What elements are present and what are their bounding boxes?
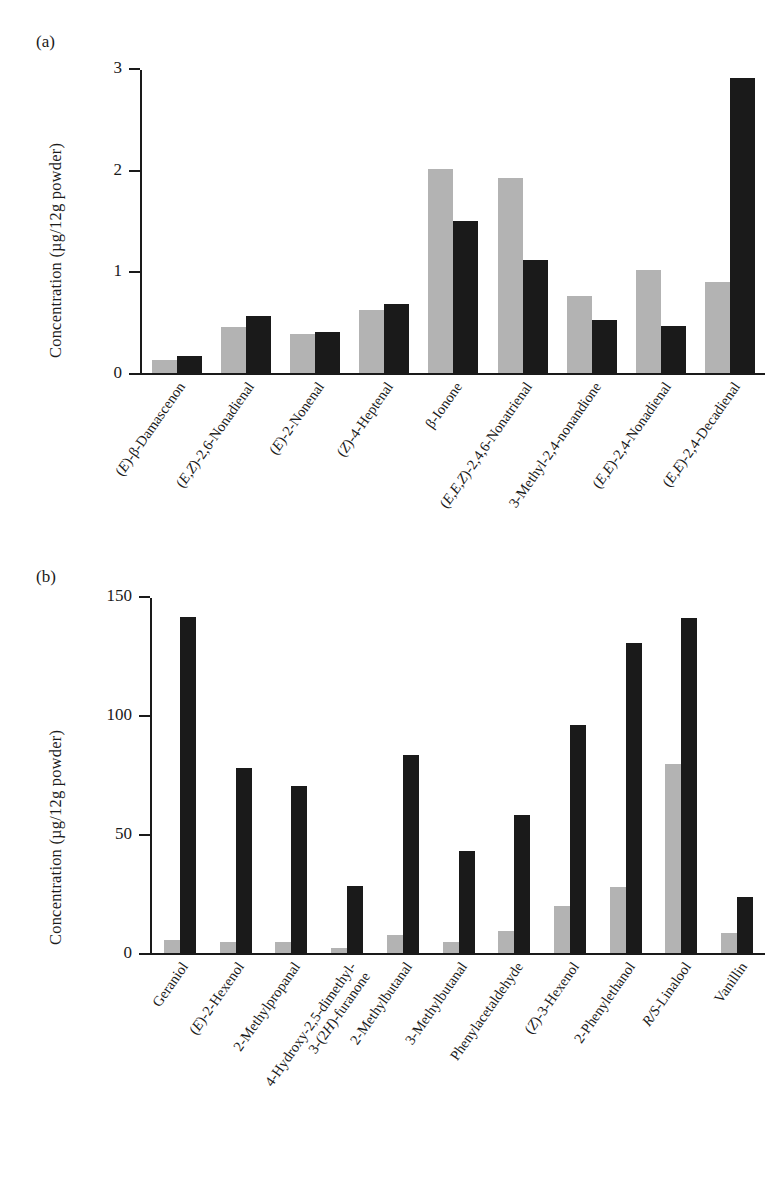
panel-b-bar-group [152,598,208,953]
panel-a-bar-series2 [523,260,548,373]
panel-b-bar-group [208,598,264,953]
panel-a-bar-group [280,70,349,373]
panel-a-bar-series1 [359,310,384,373]
panel-b-x-label-cell: (E)-2-Hexenol [206,955,262,1145]
panel-a-bar-series2 [661,326,686,373]
panel-a-x-label-cell: (E)-2-Nonenal [279,375,348,565]
panel-b-bar-series2 [737,897,753,953]
panel-a-bar-group-container [142,70,765,373]
panel-a-bar-group [696,70,765,373]
panel-b: (b) Concentration (µg/12g powder) 150100… [0,545,781,1191]
panel-a-bar-series1 [636,270,661,373]
panel-b-bar-series2 [180,617,196,953]
panel-a-tick-label: 3 [114,59,123,76]
panel-a-bar-group [557,70,626,373]
panel-b-plot-area: 150100500 Geraniol(E)-2-Hexenol2-Methylp… [150,598,765,955]
panel-a-bar-group [488,70,557,373]
panel-b-bar-series1 [443,942,459,953]
panel-b-bar-series1 [721,933,737,953]
panel-a-bar-series1 [221,327,246,373]
panel-b-bar-series2 [626,643,642,953]
panel-a-bar-series1 [152,360,177,373]
panel-b-x-label-cell: 2-Methylbutanal [374,955,430,1145]
panel-b-bar-group [319,598,375,953]
panel-a-tick-0: 0 [129,373,140,375]
panel-a-tick-label: 1 [114,263,123,280]
panel-b-tick-label: 100 [107,706,133,723]
panel-b-bar-series2 [291,786,307,953]
panel-b-x-label-cell: 4-Hydroxy-2,5-dimethyl-3-(2H)-furanone [318,955,374,1145]
panel-b-tick-0: 0 [139,953,150,955]
panel-b-bar-series2 [514,815,530,953]
panel-a-x-label-cell: (E,E)-2,4-Decadienal [696,375,765,565]
panel-a-bar-series1 [705,282,730,373]
panel-b-bar-group [654,598,710,953]
panel-a-x-label: β-Ionone [422,379,466,431]
panel-b-bar-series2 [570,725,586,953]
panel-a-bar-series2 [730,78,755,373]
panel-b-tick-label: 0 [124,944,133,961]
panel-a-bar-series2 [453,221,478,374]
panel-b-x-label-cell: R/S-Linalool [653,955,709,1145]
panel-b-x-label: Vanillin [711,959,751,1006]
panel-a: (a) Concentration (µg/12g powder) 3210 (… [0,0,781,560]
panel-b-tick-label: 150 [107,587,133,604]
panel-b-bar-group [598,598,654,953]
panel-b-x-label-cell: 2-Phenylethanol [597,955,653,1145]
panel-b-bar-series2 [347,886,363,953]
panel-a-tick-1: 1 [129,271,140,273]
panel-b-bar-series2 [459,851,475,953]
panel-a-bar-series1 [290,334,315,373]
panel-a-bar-group [211,70,280,373]
panel-a-x-label-cell: (E,Z)-2,6-Nonadienal [209,375,278,565]
panel-b-bar-series1 [220,942,236,953]
panel-a-bar-series2 [177,356,202,373]
panel-b-x-label-cell: (Z)-3-Hexenol [541,955,597,1145]
panel-b-bar-group [263,598,319,953]
panel-b-bar-group [542,598,598,953]
panel-b-bar-series1 [610,887,626,953]
panel-b-x-label-cell: Geraniol [150,955,206,1145]
panel-b-bar-group [375,598,431,953]
panel-a-bar-series1 [498,178,523,373]
panel-a-bar-series2 [246,316,271,373]
panel-a-x-axis-labels: (E)-β-Damascenon(E,Z)-2,6-Nonadienal(E)-… [140,375,765,565]
panel-b-bar-group [486,598,542,953]
panel-b-bar-series2 [681,618,697,953]
panel-b-tick-label: 50 [115,825,132,842]
panel-b-bar-series2 [403,755,419,953]
panel-a-tick-label: 0 [114,364,123,381]
panel-a-bar-group [350,70,419,373]
panel-b-x-label: Geraniol [149,959,192,1010]
panel-a-bar-series2 [315,332,340,373]
panel-b-bar-series2 [236,768,252,953]
panel-b-bar-series1 [554,906,570,953]
panel-b-tag: (b) [36,567,56,587]
panel-b-tick-150: 150 [139,596,150,598]
panel-a-bar-series2 [592,320,617,373]
panel-b-bar-series1 [164,940,180,953]
panel-b-bar-series1 [331,948,347,953]
panel-a-bar-group [142,70,211,373]
panel-b-y-axis-title: Concentration (µg/12g powder) [46,730,66,945]
panel-a-bar-series1 [428,169,453,373]
panel-b-x-label-cell: Vanillin [709,955,765,1145]
panel-a-tick-2: 2 [129,170,140,172]
panel-b-bar-series1 [275,942,291,953]
panel-a-bar-series2 [384,304,409,373]
panel-a-bar-series1 [567,296,592,373]
panel-b-bar-series1 [498,931,514,953]
panel-a-plot-area: 3210 (E)-β-Damascenon(E,Z)-2,6-Nonadiena… [140,70,765,375]
panel-b-bar-group [709,598,765,953]
panel-b-tick-50: 50 [139,834,150,836]
panel-a-tag: (a) [36,32,55,52]
panel-a-bar-group [419,70,488,373]
panel-a-y-axis-title: Concentration (µg/12g powder) [46,143,66,358]
panel-a-tick-3: 3 [129,68,140,70]
panel-b-tick-100: 100 [139,715,150,717]
panel-a-tick-label: 2 [114,161,123,178]
panel-b-bar-group [431,598,487,953]
panel-b-bar-series1 [387,935,403,953]
panel-b-x-axis-labels: Geraniol(E)-2-Hexenol2-Methylpropanal4-H… [150,955,765,1145]
panel-b-bar-series1 [665,764,681,953]
